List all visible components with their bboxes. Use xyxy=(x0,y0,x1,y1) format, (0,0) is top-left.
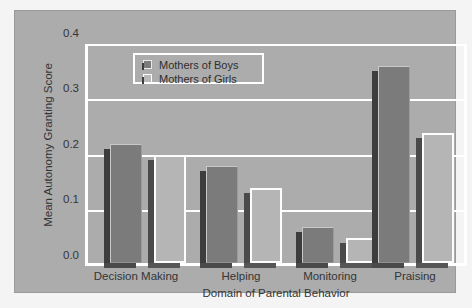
bar-face xyxy=(154,155,186,263)
bar-face xyxy=(250,188,282,263)
bar-decision-making-boys xyxy=(110,144,142,263)
bar-decision-making-girls xyxy=(154,155,186,263)
y-tick-0.0: 0.0 xyxy=(33,249,79,261)
legend-swatch-girls-icon xyxy=(143,74,152,83)
y-tick-0.4: 0.4 xyxy=(33,27,79,39)
bar-praising-boys xyxy=(378,66,410,263)
legend-label-boys: Mothers of Boys xyxy=(159,59,238,71)
bar-bottom xyxy=(244,263,276,268)
bar-helping-boys xyxy=(206,166,238,263)
legend: Mothers of Boys Mothers of Girls xyxy=(133,53,264,84)
legend-item-girls: Mothers of Girls xyxy=(143,72,258,85)
bar-helping-girls xyxy=(250,188,282,263)
legend-label-girls: Mothers of Girls xyxy=(159,73,237,85)
y-tick-0.2: 0.2 xyxy=(33,138,79,150)
figure: 0.4 0.3 0.2 0.1 0.0 Mean Autonomy Granti… xyxy=(0,0,472,308)
bar-bottom xyxy=(200,263,232,268)
bar-bottom xyxy=(104,263,136,268)
bar-bottom xyxy=(340,263,372,268)
x-tick-praising: Praising xyxy=(355,270,472,282)
legend-swatch-boys-icon xyxy=(143,60,152,69)
bar-face xyxy=(378,66,410,263)
bar-monitoring-boys xyxy=(302,227,334,263)
y-tick-0.1: 0.1 xyxy=(33,193,79,205)
bar-face xyxy=(422,133,454,263)
bar-face xyxy=(302,227,334,263)
bar-praising-girls xyxy=(422,133,454,263)
y-tick-0.3: 0.3 xyxy=(33,82,79,94)
bar-face xyxy=(206,166,238,263)
gridline-0.4 xyxy=(88,44,464,46)
bar-face xyxy=(110,144,142,263)
x-axis-title: Domain of Parental Behavior xyxy=(85,287,467,299)
bar-bottom xyxy=(148,263,180,268)
bar-bottom xyxy=(416,263,448,268)
bar-bottom xyxy=(372,263,404,268)
bar-bottom xyxy=(296,263,328,268)
chart-panel: 0.4 0.3 0.2 0.1 0.0 Mean Autonomy Granti… xyxy=(14,10,456,293)
legend-item-boys: Mothers of Boys xyxy=(143,58,258,71)
y-axis-title: Mean Autonomy Granting Score xyxy=(42,35,54,255)
